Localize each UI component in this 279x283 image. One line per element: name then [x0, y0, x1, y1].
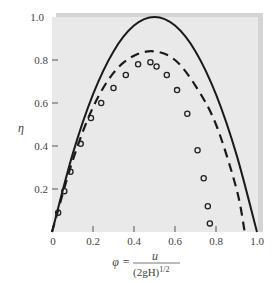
- y-tick-0.8: 0.8: [34, 54, 48, 66]
- x-axis-symbol: φ =: [112, 255, 130, 269]
- x-axis-denominator: (2gH)1/2: [133, 265, 170, 279]
- y-tick-0.6: 0.6: [34, 97, 48, 109]
- y-tick-0.2: 0.2: [34, 183, 48, 195]
- x-tick-0.6: 0.6: [168, 235, 182, 247]
- y-tick-labels: 1.0 0.8 0.6 0.4 0.2: [30, 11, 48, 195]
- x-tick-0.2: 0.2: [86, 235, 100, 247]
- x-tick-0: 0: [50, 235, 56, 247]
- y-tick-0.4: 0.4: [34, 140, 48, 152]
- x-tick-0.4: 0.4: [127, 235, 141, 247]
- y-axis-label: η: [18, 121, 24, 135]
- x-axis-numerator: u: [152, 249, 158, 263]
- x-tick-0.8: 0.8: [209, 235, 223, 247]
- efficiency-chart: 1.0 0.8 0.6 0.4 0.2 0 0.2 0.4 0.6 0.8 1.…: [0, 0, 279, 283]
- x-axis-label: φ = u (2gH)1/2: [112, 249, 180, 279]
- x-tick-labels: 0 0.2 0.4 0.6 0.8 1.0: [50, 235, 264, 247]
- x-tick-1.0: 1.0: [250, 235, 264, 247]
- y-tick-1.0: 1.0: [30, 11, 44, 23]
